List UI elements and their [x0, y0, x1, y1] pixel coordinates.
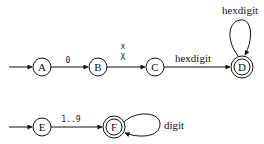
state-d: D [231, 56, 253, 78]
state-e-label: E [39, 121, 46, 133]
state-c: C [146, 58, 164, 76]
state-b: B [89, 58, 107, 76]
edge-c-d-label: hexdigit [175, 52, 211, 64]
edge-d-d-loop [230, 20, 251, 56]
automaton-hex: A 0 B x X C hexdigit D hexdigit [9, 4, 258, 78]
edge-e-f-label: 1..9 [61, 115, 80, 124]
edge-b-c-label-line2: X [121, 53, 126, 62]
edge-f-f-label: digit [164, 119, 184, 131]
edge-d-d-label: hexdigit [222, 4, 258, 16]
state-f-label: F [111, 121, 117, 133]
state-e: E [33, 118, 51, 136]
automaton-decimal: E 1..9 F digit [9, 114, 184, 138]
state-c-label: C [151, 61, 158, 73]
state-a: A [33, 58, 51, 76]
state-f: F [103, 116, 125, 138]
fsa-diagram: A 0 B x X C hexdigit D hexdigit [0, 0, 264, 144]
edge-b-c-label-line1: x [121, 42, 126, 51]
edge-f-f-loop [124, 114, 160, 136]
edge-a-b-label: 0 [66, 56, 71, 65]
state-b-label: B [94, 61, 101, 73]
state-d-label: D [238, 61, 246, 73]
state-a-label: A [38, 61, 46, 73]
